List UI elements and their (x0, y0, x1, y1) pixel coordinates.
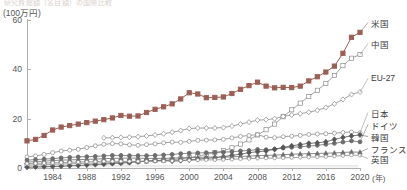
data-point-marker (144, 133, 149, 138)
data-point-marker (341, 140, 345, 144)
data-point-marker (111, 160, 114, 163)
data-point-marker (196, 138, 200, 142)
data-point-marker (341, 135, 346, 140)
data-point-marker (213, 125, 218, 130)
data-point-marker (187, 126, 192, 131)
data-point-marker (127, 143, 131, 147)
data-point-marker (204, 138, 208, 142)
data-point-marker (179, 140, 183, 144)
data-point-marker (256, 157, 259, 160)
data-point-marker (162, 159, 165, 162)
data-point-marker (298, 111, 303, 116)
data-point-marker (213, 95, 217, 99)
data-point-marker (145, 160, 148, 163)
data-point-marker (94, 160, 97, 163)
data-point-marker (290, 156, 293, 159)
data-point-marker (59, 149, 63, 153)
series-米国 (25, 30, 362, 143)
legend-leader-line (360, 23, 368, 33)
data-point-marker (247, 120, 252, 125)
data-point-marker (324, 105, 329, 110)
data-point-marker (324, 81, 328, 85)
data-point-marker (170, 159, 173, 162)
data-point-marker (315, 75, 319, 79)
data-point-marker (213, 151, 217, 155)
data-point-marker (307, 132, 311, 136)
data-point-marker (306, 110, 311, 115)
data-point-marker (290, 134, 294, 138)
legend-leader-line (360, 79, 368, 93)
data-point-marker (136, 114, 140, 118)
data-point-marker (221, 95, 225, 99)
legend-leader-line (360, 113, 368, 133)
data-point-marker (324, 132, 328, 136)
data-point-marker (187, 139, 191, 143)
data-point-marker (349, 35, 353, 39)
data-point-marker (85, 146, 89, 150)
data-point-marker (85, 160, 88, 163)
data-point-marker (316, 155, 319, 158)
data-point-marker (264, 117, 269, 122)
data-point-marker (350, 139, 354, 143)
data-point-marker (349, 133, 354, 138)
data-point-marker (162, 105, 166, 109)
data-point-marker (230, 91, 234, 95)
series-label-japan: 日本 (371, 107, 389, 119)
data-point-marker (205, 158, 208, 161)
data-point-marker (332, 101, 337, 106)
data-point-marker (136, 134, 141, 139)
data-point-marker (196, 158, 199, 161)
data-point-marker (153, 107, 157, 111)
data-point-marker (102, 118, 106, 122)
data-point-marker (76, 122, 80, 126)
series-ドイツ (25, 139, 362, 162)
data-point-marker (256, 133, 260, 137)
data-point-marker (136, 143, 140, 147)
data-point-marker (51, 128, 55, 132)
data-point-marker (272, 147, 277, 152)
data-point-marker (281, 156, 284, 159)
data-point-marker (110, 135, 115, 140)
data-point-marker (307, 79, 311, 83)
data-point-marker (110, 142, 114, 146)
data-point-marker (195, 125, 200, 130)
data-point-marker (281, 135, 285, 139)
data-point-marker (25, 162, 28, 165)
data-point-marker (299, 156, 302, 159)
data-point-marker (42, 161, 45, 164)
data-point-marker (341, 51, 345, 55)
data-point-marker (136, 160, 139, 163)
data-point-marker (358, 52, 362, 56)
series-label-korea: 韓国 (371, 131, 389, 143)
data-point-marker (77, 160, 80, 163)
series-label-china: 中国 (371, 38, 389, 50)
data-point-marker (119, 135, 124, 140)
data-point-marker (221, 137, 225, 141)
series-韓国 (25, 132, 363, 170)
data-point-marker (298, 84, 302, 88)
data-point-marker (230, 123, 235, 128)
data-point-marker (273, 156, 276, 159)
data-point-marker (59, 125, 63, 129)
data-point-marker (93, 119, 97, 123)
data-point-marker (255, 118, 260, 123)
data-point-marker (145, 143, 149, 147)
data-point-marker (264, 156, 267, 159)
legend-leader-line (360, 149, 368, 153)
series-label-us: 米国 (371, 17, 389, 29)
data-point-marker (179, 159, 182, 162)
data-point-marker (102, 160, 105, 163)
data-point-marker (230, 158, 233, 161)
data-point-marker (324, 70, 328, 74)
data-point-marker (102, 142, 106, 146)
series-label-germany: ドイツ (371, 119, 398, 131)
data-point-marker (349, 56, 353, 60)
data-point-marker (230, 136, 234, 140)
data-point-marker (238, 142, 242, 146)
data-point-marker (127, 135, 132, 140)
series-label-eu27: EU-27 (371, 73, 395, 83)
data-point-marker (332, 131, 336, 135)
data-point-marker (178, 128, 183, 133)
data-point-marker (230, 146, 234, 150)
